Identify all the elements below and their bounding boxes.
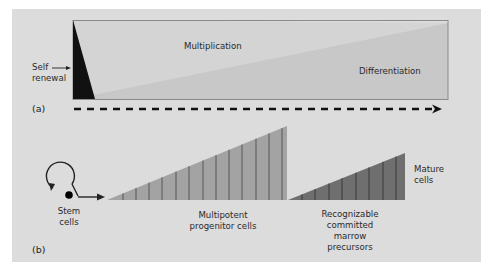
progenitor-cells-label: Multipotent progenitor cells [163, 210, 283, 232]
precursors-line2: committed [300, 220, 400, 231]
precursors-line3: marrow [300, 231, 400, 242]
self-renewal-label: Self renewal [32, 62, 66, 84]
stem-cells-line1: Stem [50, 206, 88, 217]
progenitor-line1: Multipotent [163, 210, 283, 221]
proliferation-box [73, 20, 448, 100]
self-renewal-line2: renewal [32, 73, 66, 84]
stem-cell-loop-icon [46, 162, 105, 200]
differentiation-label: Differentiation [359, 66, 421, 77]
precursor-triangle [288, 153, 405, 200]
multiplication-label: Multiplication [184, 41, 242, 52]
mature-line2: cells [414, 175, 444, 186]
panel-a-label: (a) [32, 103, 45, 114]
precursors-label: Recognizable committed marrow precursors [300, 209, 400, 253]
mature-cells-label: Mature cells [414, 164, 444, 186]
timeline-arrow-icon [74, 105, 442, 114]
diagram-graphics [0, 0, 493, 273]
panel-b-label: (b) [32, 244, 45, 255]
self-renewal-line1: Self [32, 62, 66, 73]
progenitor-line2: progenitor cells [163, 221, 283, 232]
stem-cells-label: Stem cells [50, 206, 88, 228]
stem-cell-dot [65, 191, 73, 199]
stem-cells-line2: cells [50, 217, 88, 228]
progenitor-triangle [107, 126, 287, 200]
precursors-line4: precursors [300, 242, 400, 253]
precursors-line1: Recognizable [300, 209, 400, 220]
mature-line1: Mature [414, 164, 444, 175]
